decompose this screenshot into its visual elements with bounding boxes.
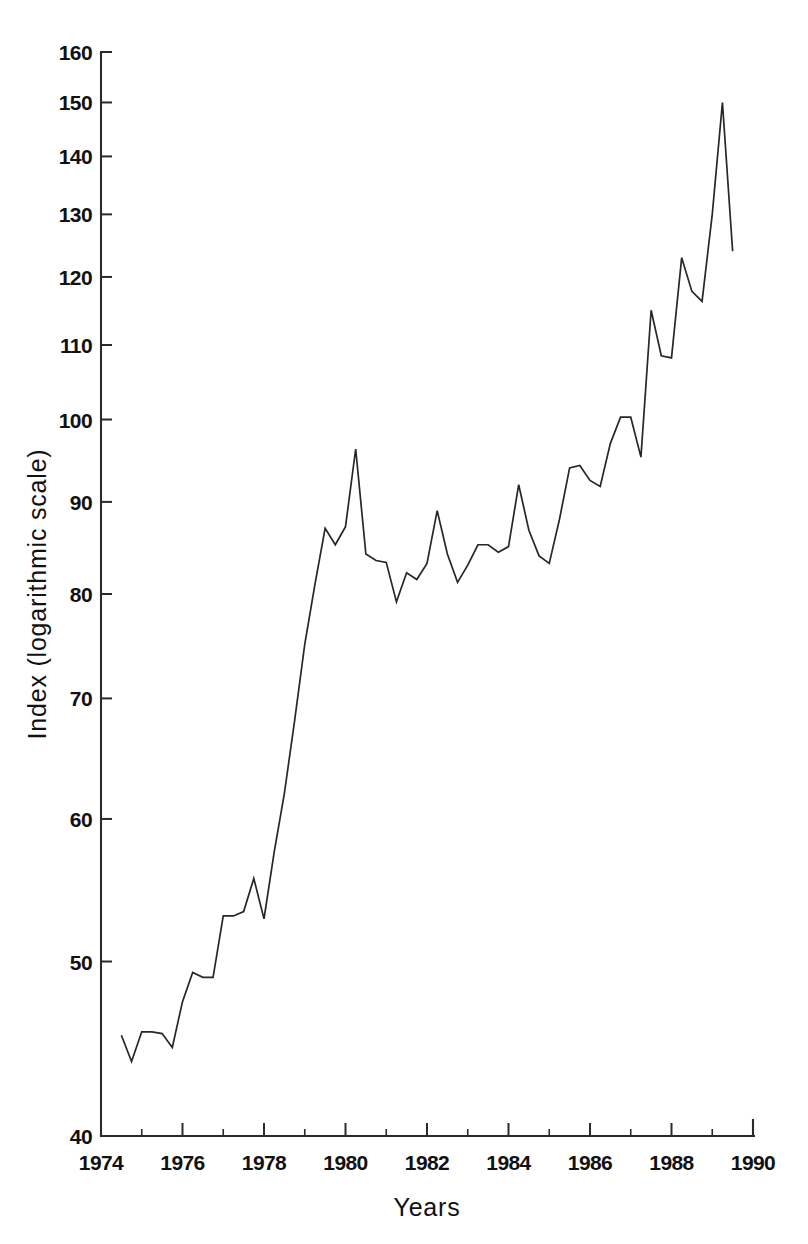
line-chart-svg: 405060708090100110120130140150160 197419… [0, 0, 808, 1244]
y-tick-label: 40 [70, 1125, 92, 1148]
y-axis-ticks [101, 52, 112, 1136]
y-tick-label: 50 [70, 951, 92, 974]
x-tick-label: 1980 [323, 1151, 367, 1174]
y-axis-label: Index (logarithmic scale) [23, 449, 51, 740]
y-tick-label: 70 [70, 687, 92, 710]
y-tick-label: 80 [70, 583, 92, 606]
y-tick-label: 100 [59, 409, 92, 432]
x-tick-label: 1976 [160, 1151, 204, 1174]
x-tick-label: 1974 [79, 1151, 124, 1174]
data-series-line [121, 102, 732, 1061]
y-tick-label: 60 [70, 808, 92, 831]
y-tick-label: 130 [59, 203, 92, 226]
x-tick-label: 1990 [731, 1151, 775, 1174]
y-tick-label: 110 [60, 334, 92, 357]
chart-figure: 405060708090100110120130140150160 197419… [0, 0, 808, 1244]
x-tick-label: 1978 [242, 1151, 287, 1174]
x-axis-major-ticks [101, 1123, 753, 1136]
y-tick-label: 120 [59, 266, 92, 289]
x-axis-tick-labels: 197419761978198019821984198619881990 [79, 1151, 775, 1174]
x-tick-label: 1982 [405, 1151, 449, 1174]
y-tick-label: 90 [70, 491, 92, 514]
y-axis-tick-labels: 405060708090100110120130140150160 [59, 41, 92, 1148]
y-tick-label: 160 [59, 41, 92, 64]
x-axis-label: Years [393, 1193, 460, 1221]
y-tick-label: 150 [59, 91, 92, 114]
y-tick-label: 140 [59, 145, 92, 168]
x-tick-label: 1986 [568, 1151, 612, 1174]
x-tick-label: 1988 [649, 1151, 694, 1174]
axes-lines [101, 52, 754, 1136]
x-tick-label: 1984 [486, 1151, 531, 1174]
